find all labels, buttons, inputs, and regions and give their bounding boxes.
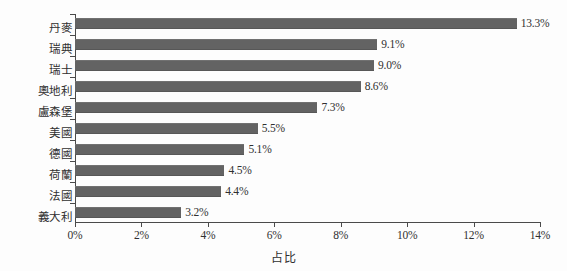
value-label: 7.3% xyxy=(321,101,344,113)
x-axis-tick-label: 14% xyxy=(517,229,563,241)
category-label: 奧地利 xyxy=(6,82,72,98)
bar xyxy=(75,39,377,50)
x-axis-tick xyxy=(141,222,142,227)
bar xyxy=(75,207,181,218)
x-axis-tick xyxy=(75,222,76,227)
value-label: 4.5% xyxy=(228,164,251,176)
x-axis-tick xyxy=(274,222,275,227)
category-label: 丹麥 xyxy=(6,19,72,35)
x-axis-tick xyxy=(540,222,541,227)
category-label: 義大利 xyxy=(6,208,72,224)
category-label: 法國 xyxy=(6,187,72,203)
category-label: 盧森堡 xyxy=(6,103,72,119)
category-label: 荷蘭 xyxy=(6,166,72,182)
x-axis-tick xyxy=(208,222,209,227)
value-label: 8.6% xyxy=(365,80,388,92)
value-label: 5.1% xyxy=(248,143,271,155)
x-axis-line xyxy=(75,222,541,223)
category-label: 瑞士 xyxy=(6,61,72,77)
value-label: 4.4% xyxy=(225,185,248,197)
bar xyxy=(75,60,374,71)
bar xyxy=(75,186,221,197)
x-axis-title: 占比 xyxy=(0,248,567,265)
x-axis-tick-label: 2% xyxy=(118,229,164,241)
bar xyxy=(75,165,224,176)
bar xyxy=(75,123,258,134)
x-axis-tick xyxy=(407,222,408,227)
x-axis-tick-label: 8% xyxy=(318,229,364,241)
bar xyxy=(75,18,517,29)
bar-chart: 丹麥 瑞典 瑞士 奧地利 盧森堡 美國 德國 荷蘭 法國 義大利 xyxy=(0,0,567,271)
value-label: 9.1% xyxy=(381,38,404,50)
bar xyxy=(75,144,244,155)
x-axis-tick xyxy=(341,222,342,227)
x-axis-tick xyxy=(474,222,475,227)
value-label: 3.2% xyxy=(185,206,208,218)
value-label: 5.5% xyxy=(262,122,285,134)
x-axis-tick-label: 12% xyxy=(451,229,497,241)
value-label: 9.0% xyxy=(378,59,401,71)
x-axis-tick-label: 0% xyxy=(52,229,98,241)
bar xyxy=(75,102,317,113)
category-label: 瑞典 xyxy=(6,40,72,56)
category-label: 德國 xyxy=(6,145,72,161)
x-axis-tick-label: 4% xyxy=(185,229,231,241)
bar xyxy=(75,81,361,92)
x-axis-tick-label: 6% xyxy=(251,229,297,241)
x-axis-tick-label: 10% xyxy=(384,229,430,241)
value-label: 13.3% xyxy=(521,17,550,29)
category-label: 美國 xyxy=(6,124,72,140)
